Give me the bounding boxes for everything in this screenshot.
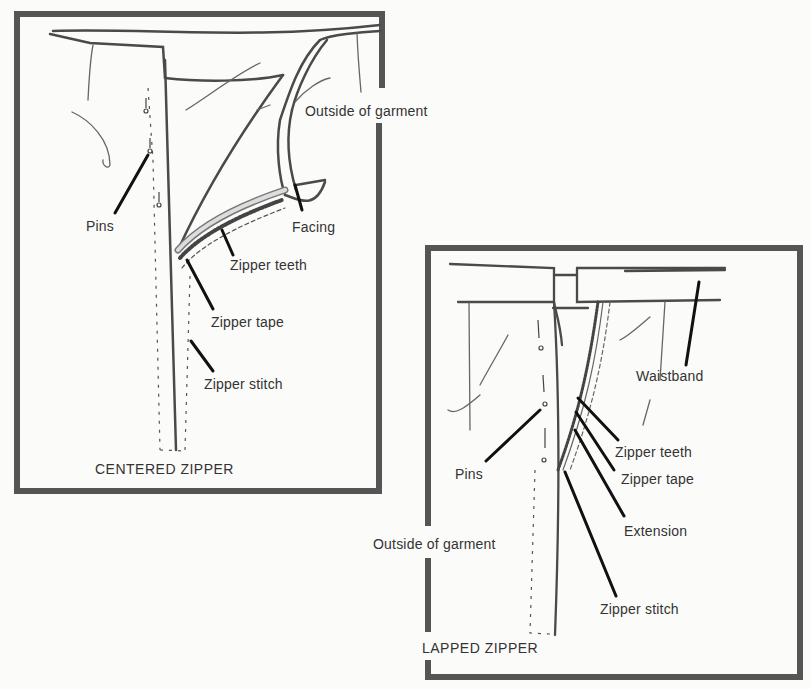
label-zipper-teeth-lapped: Zipper teeth — [615, 444, 692, 460]
caption-centered-zipper: CENTERED ZIPPER — [95, 461, 234, 477]
label-extension: Extension — [624, 523, 687, 539]
label-zipper-stitch-centered: Zipper stitch — [204, 376, 283, 392]
label-waistband: Waistband — [636, 368, 703, 384]
centered-zipper-frame — [17, 14, 382, 491]
label-zipper-tape-lapped: Zipper tape — [621, 471, 694, 487]
label-outside-of-garment-centered: Outside of garment — [305, 103, 428, 119]
label-outside-of-garment-lapped: Outside of garment — [373, 536, 496, 552]
label-zipper-teeth-centered: Zipper teeth — [230, 257, 307, 273]
label-zipper-stitch-lapped: Zipper stitch — [600, 601, 679, 617]
label-pins-lapped: Pins — [455, 466, 483, 482]
label-zipper-tape-centered: Zipper tape — [211, 314, 284, 330]
label-pins-centered: Pins — [86, 218, 114, 234]
label-facing: Facing — [292, 219, 335, 235]
caption-lapped-zipper: LAPPED ZIPPER — [422, 640, 538, 656]
